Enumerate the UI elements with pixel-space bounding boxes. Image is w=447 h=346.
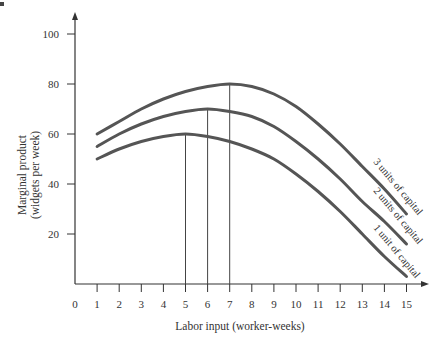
axes: 204060801000123456789101112131415: [43, 12, 430, 310]
curve-1-capital: [97, 134, 406, 277]
y-tick-label: 40: [48, 178, 60, 190]
x-tick-label: 10: [291, 298, 303, 310]
x-tick-label: 0: [72, 298, 78, 310]
x-tick-label: 4: [161, 298, 167, 310]
x-tick-label: 1: [94, 298, 100, 310]
x-tick-label: 8: [249, 298, 255, 310]
x-tick-label: 12: [335, 298, 346, 310]
y-tick-label: 100: [43, 28, 60, 40]
curves: [97, 84, 406, 277]
y-tick-label: 60: [48, 128, 60, 140]
peak-lines: [186, 84, 230, 284]
x-tick-label: 3: [139, 298, 145, 310]
y-axis-arrow-icon: [72, 12, 78, 20]
x-tick-label: 2: [116, 298, 122, 310]
x-tick-label: 14: [379, 298, 391, 310]
x-axis-title: Labor input (worker-weeks): [175, 320, 305, 333]
y-tick-label: 20: [48, 228, 60, 240]
y-axis-title-line1: Marginal product: [16, 134, 29, 215]
x-tick-label: 15: [401, 298, 413, 310]
curve-2-capital: [97, 109, 406, 244]
x-tick-label: 11: [313, 298, 324, 310]
x-tick-label: 9: [271, 298, 277, 310]
x-axis-arrow-icon: [421, 281, 429, 287]
x-tick-label: 5: [183, 298, 189, 310]
x-tick-label: 6: [205, 298, 211, 310]
y-axis-title-line2: (widgets per week): [29, 131, 42, 219]
y-tick-label: 80: [48, 78, 60, 90]
marginal-product-chart: 204060801000123456789101112131415 1 unit…: [0, 0, 447, 346]
x-tick-label: 13: [357, 298, 369, 310]
x-tick-label: 7: [227, 298, 233, 310]
